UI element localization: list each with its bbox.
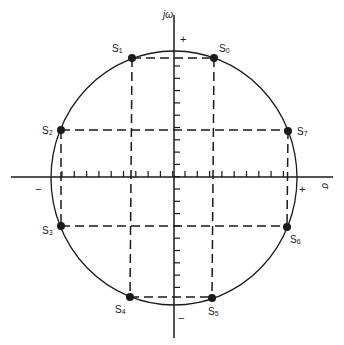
horizontal-axis-ticks	[62, 171, 283, 177]
point-label-s0: S0	[219, 43, 230, 54]
point-label-s3: S3	[42, 225, 53, 236]
vertical-plus-sign: +	[180, 33, 186, 45]
point-s7	[284, 127, 292, 135]
point-s5	[208, 294, 216, 302]
horizontal-axis-label: σ	[320, 183, 331, 190]
point-label-s4: S4	[115, 304, 126, 315]
vertical-minus-sign: −	[178, 312, 184, 324]
s-plane-diagram: S0S1S2S3S4S5S6S7 + − + − jω σ	[0, 0, 344, 345]
horizontal-minus-sign: −	[35, 183, 41, 195]
point-label-s5: S5	[208, 306, 219, 317]
point-label-s6: S6	[290, 234, 301, 245]
vertical-axis-label: jω	[161, 9, 173, 20]
point-s1	[128, 54, 136, 62]
point-label-s1: S1	[112, 43, 123, 54]
point-s2	[57, 126, 65, 134]
point-label-s7: S7	[297, 126, 308, 137]
point-s4	[126, 293, 134, 301]
horizontal-plus-sign: +	[299, 183, 305, 195]
point-s3	[57, 222, 65, 230]
constellation-points: S0S1S2S3S4S5S6S7	[42, 43, 308, 317]
point-s0	[210, 54, 218, 62]
point-s6	[283, 223, 291, 231]
point-label-s2: S2	[42, 125, 53, 136]
vertical-axis-ticks	[174, 66, 180, 287]
